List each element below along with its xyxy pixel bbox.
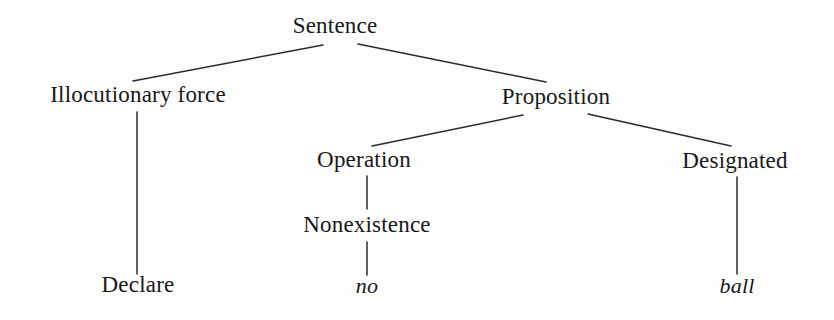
tree-edge-sentence-to-illocutionaryforce [133, 45, 323, 81]
edge-layer [133, 44, 737, 275]
tree-edge-proposition-to-operation [372, 115, 523, 146]
syntax-tree-diagram: SentenceIllocutionary forcePropositionOp… [0, 0, 834, 320]
tree-node-nonexistence: Nonexistence [303, 212, 431, 237]
tree-edge-sentence-to-proposition [358, 44, 546, 82]
tree-node-illocutionaryforce: Illocutionary force [50, 82, 226, 107]
tree-node-ball: ball [719, 273, 754, 298]
tree-edge-proposition-to-designated [588, 114, 731, 146]
tree-canvas: SentenceIllocutionary forcePropositionOp… [0, 0, 834, 320]
tree-node-declare: Declare [102, 272, 175, 297]
tree-node-designated: Designated [682, 148, 788, 173]
tree-node-no: no [356, 273, 378, 298]
tree-node-operation: Operation [317, 147, 411, 172]
tree-node-proposition: Proposition [502, 84, 611, 109]
tree-node-sentence: Sentence [293, 13, 378, 38]
